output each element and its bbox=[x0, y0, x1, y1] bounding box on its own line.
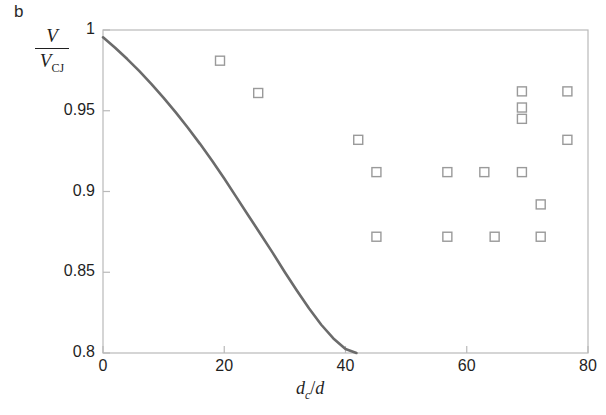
data-points bbox=[216, 56, 572, 241]
y-tick-label: 1 bbox=[35, 20, 95, 38]
axis-ticks bbox=[103, 30, 588, 353]
figure-panel: b V VCJ dc/d 0.80.850.90.951020406080 bbox=[0, 0, 606, 415]
axis-frame bbox=[103, 30, 588, 353]
axis-frame-rect bbox=[103, 30, 588, 353]
data-point-marker bbox=[354, 135, 363, 144]
x-tick-label: 40 bbox=[326, 357, 366, 375]
theoretical-curve bbox=[103, 37, 356, 353]
data-point-marker bbox=[490, 232, 499, 241]
data-point-marker bbox=[480, 168, 489, 177]
theory-curve-path bbox=[103, 37, 356, 353]
data-point-marker bbox=[443, 168, 452, 177]
data-point-marker bbox=[517, 168, 526, 177]
y-tick-label: 0.95 bbox=[35, 101, 95, 119]
data-point-marker bbox=[536, 232, 545, 241]
x-tick-label: 20 bbox=[204, 357, 244, 375]
x-tick-label: 60 bbox=[447, 357, 487, 375]
x-tick-label: 80 bbox=[568, 357, 606, 375]
data-point-marker bbox=[372, 168, 381, 177]
data-point-marker bbox=[517, 87, 526, 96]
data-point-marker bbox=[563, 135, 572, 144]
y-tick-label: 0.85 bbox=[35, 262, 95, 280]
data-point-marker bbox=[254, 88, 263, 97]
data-point-marker bbox=[443, 232, 452, 241]
data-point-marker bbox=[563, 87, 572, 96]
y-tick-label: 0.9 bbox=[35, 182, 95, 200]
data-point-marker bbox=[372, 232, 381, 241]
data-point-marker bbox=[517, 103, 526, 112]
data-point-marker bbox=[216, 56, 225, 65]
data-point-marker bbox=[517, 114, 526, 123]
x-tick-label: 0 bbox=[83, 357, 123, 375]
data-point-marker bbox=[536, 200, 545, 209]
